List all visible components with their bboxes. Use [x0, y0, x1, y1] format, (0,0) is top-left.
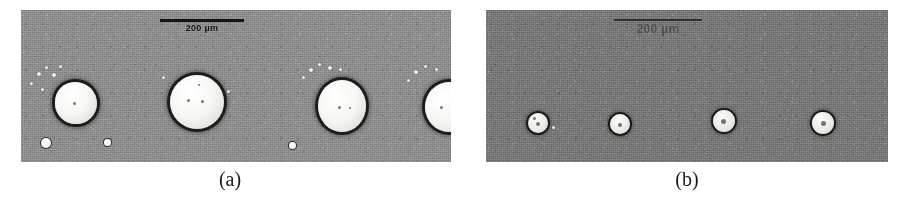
droplet-pit	[821, 121, 826, 126]
satellite-droplet	[41, 138, 51, 148]
droplet	[425, 82, 451, 132]
droplet-spatter	[227, 90, 230, 93]
scale-bar-label-a: 200 µm	[160, 24, 244, 33]
droplet	[528, 113, 548, 133]
droplet-spatter	[435, 68, 438, 71]
droplet-pit	[187, 99, 190, 102]
droplet-spatter	[407, 79, 410, 82]
droplet-pit	[338, 106, 341, 109]
droplet-pit	[721, 119, 726, 124]
droplet-spatter	[45, 66, 48, 69]
droplet-pit	[73, 102, 76, 105]
droplet-pit	[536, 122, 540, 126]
droplet	[318, 80, 366, 132]
droplet-spatter	[309, 68, 313, 72]
satellite-droplet	[289, 142, 296, 149]
droplet-spatter	[37, 72, 41, 76]
droplet-pit	[201, 100, 204, 103]
droplet-pit	[198, 84, 200, 86]
panel-caption-b: (b)	[657, 168, 717, 191]
droplet-pit	[440, 106, 443, 109]
droplet-spatter	[552, 126, 555, 129]
droplet-pit	[618, 123, 622, 127]
panel-caption-a: (a)	[200, 168, 260, 191]
droplet	[170, 75, 224, 129]
droplet-spatter	[59, 65, 62, 68]
droplet-spatter	[339, 68, 342, 71]
scale-bar-b: 200 µm	[614, 19, 702, 36]
scale-bar-a: 200 µm	[160, 19, 244, 33]
micrograph-panel-a: 200 µm	[21, 10, 451, 162]
scale-bar-line-a	[160, 19, 244, 22]
droplet-spatter	[41, 88, 44, 91]
scale-bar-line-b	[614, 19, 702, 21]
droplet	[713, 110, 735, 132]
droplet-spatter	[318, 63, 321, 66]
droplet-spatter	[328, 66, 332, 70]
figure-panel-row: 200 µm	[0, 0, 904, 203]
droplet-pit	[349, 107, 351, 109]
droplet-spatter	[424, 65, 427, 68]
droplet	[812, 112, 834, 134]
droplet-pit	[533, 117, 536, 120]
droplet-spatter	[414, 70, 418, 74]
satellite-droplet	[104, 139, 111, 146]
scale-bar-label-b: 200 µm	[614, 23, 702, 36]
droplet	[55, 82, 97, 124]
droplet-spatter	[30, 82, 33, 85]
droplet	[610, 114, 630, 134]
droplet-spatter	[162, 76, 165, 79]
droplet-spatter	[302, 76, 305, 79]
micrograph-panel-b: 200 µm	[486, 10, 888, 162]
droplet-spatter	[52, 73, 56, 77]
